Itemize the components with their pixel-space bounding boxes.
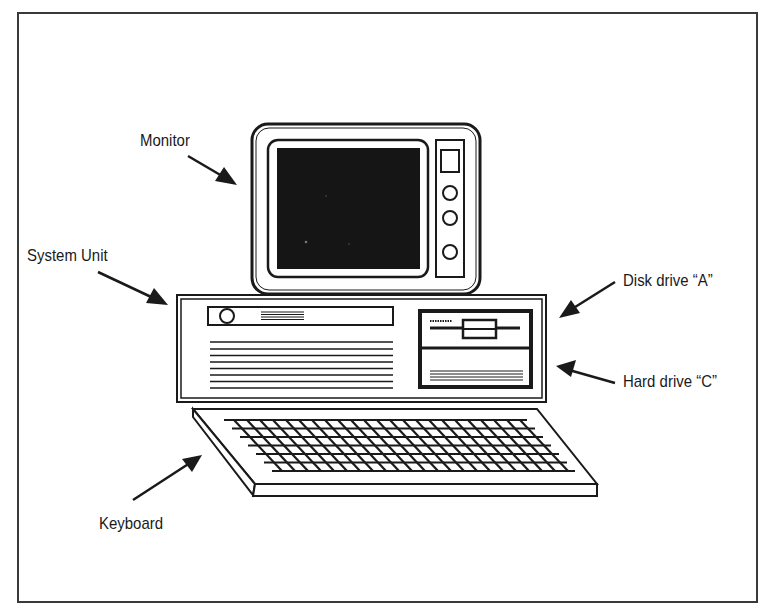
- monitor-knob-icon: [443, 186, 457, 200]
- monitor-knob-icon: [443, 211, 457, 225]
- power-button-icon: [220, 309, 234, 323]
- monitor-display-window: [441, 150, 459, 172]
- system-unit-label: System Unit: [27, 246, 108, 266]
- monitor-label: Monitor: [140, 131, 190, 151]
- front-panel: [208, 307, 393, 325]
- keyboard: [193, 409, 597, 496]
- hard-drive-c-label: Hard drive “C”: [623, 372, 717, 392]
- system-unit: [177, 295, 546, 402]
- keyboard-label: Keyboard: [99, 514, 163, 534]
- monitor-knob-icon: [443, 245, 457, 259]
- monitor: [252, 124, 480, 294]
- monitor-screen: [277, 148, 420, 269]
- keyboard-arrow-icon: [133, 459, 196, 500]
- disk-drive-a-label: Disk drive “A”: [623, 271, 713, 291]
